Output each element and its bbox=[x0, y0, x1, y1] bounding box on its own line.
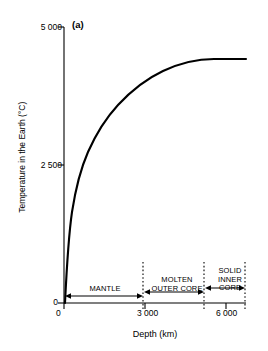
x-axis-tick-label-6000: 6 000 bbox=[216, 309, 237, 318]
x-axis-title: Depth (km) bbox=[64, 330, 246, 339]
region-label-mantle-line-1: MANTLE bbox=[68, 285, 142, 294]
panel-label: (a) bbox=[72, 20, 84, 30]
temperature-depth-chart bbox=[0, 0, 268, 351]
region-label-mantle: MANTLE bbox=[68, 285, 142, 294]
x-axis-tick-label-0: 0 bbox=[56, 309, 61, 318]
region-label-solid-inner-core: SOLID INNER CORE bbox=[210, 267, 250, 293]
x-axis-tick-label-3000: 3 000 bbox=[137, 309, 158, 318]
y-axis-tick-label-5000: 5 000 bbox=[41, 23, 62, 32]
region-label-inner-core-line-3: CORE bbox=[210, 284, 250, 293]
y-axis-tick-label-2500: 2 500 bbox=[41, 161, 62, 170]
region-label-molten-outer-core: MOLTEN OUTER CORE bbox=[146, 276, 208, 293]
span-arrow-mantle bbox=[65, 293, 143, 299]
y-axis-tick-label-0: 0 bbox=[53, 298, 58, 307]
region-label-outer-core-line-2: OUTER CORE bbox=[146, 285, 208, 294]
figure-panel-a: 5 000 2 500 0 0 3 000 6 000 Temperature … bbox=[0, 0, 268, 351]
y-axis-title: Temperature in the Earth (°C) bbox=[18, 77, 27, 237]
